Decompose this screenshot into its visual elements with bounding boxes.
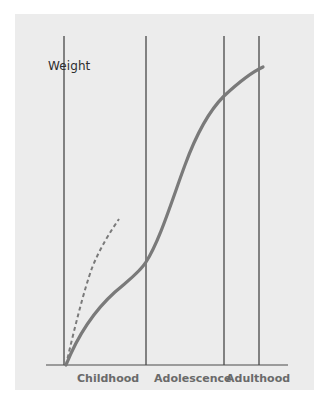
y-axis-label: Weight [48, 59, 90, 73]
solid-growth-curve [66, 67, 263, 365]
dashed-growth-curve [66, 219, 119, 365]
x-label-childhood: Childhood [77, 372, 139, 385]
x-label-adolescence: Adolescence [154, 372, 232, 385]
x-label-adulthood: Adulthood [226, 372, 290, 385]
